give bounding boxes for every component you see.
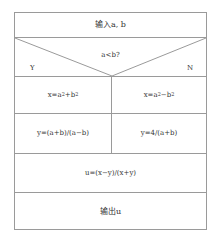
no-y-assignment: y=4/(a+b) (112, 114, 206, 153)
yes-branch-label: Y (30, 64, 35, 72)
expr-part: +b (65, 92, 75, 99)
y-assignment-row: y=(a+b)/(a−b) y=4/(a+b) (15, 114, 206, 154)
no-branch-label: N (187, 64, 193, 72)
yes-x-expression: x=a2+b2 (48, 92, 79, 99)
decision-block: a<b? Y N (15, 38, 206, 77)
compute-u-expression: u=(x−y)/(x+y) (85, 170, 136, 177)
yes-y-assignment: y=(a+b)/(a−b) (15, 114, 112, 153)
input-label: 输入a, b (95, 21, 126, 29)
x-assignment-row: x=a2+b2 x=a2−b2 (15, 77, 206, 114)
no-x-assignment: x=a2−b2 (112, 77, 206, 113)
input-block: 输入a, b (15, 13, 206, 38)
ns-flowchart: 输入a, b a<b? Y N x=a2+b2 x=a2−b2 y=(a+b)/… (14, 12, 207, 230)
exponent: 2 (75, 92, 78, 97)
output-block: 输出u (15, 193, 206, 230)
decision-condition: a<b? (15, 51, 206, 59)
compute-u-block: u=(x−y)/(x+y) (15, 154, 206, 193)
yes-x-assignment: x=a2+b2 (15, 77, 112, 113)
yes-y-expression: y=(a+b)/(a−b) (37, 130, 89, 137)
output-label: 输出u (100, 208, 121, 216)
expr-part: −b (161, 92, 171, 99)
no-y-expression: y=4/(a+b) (141, 130, 178, 137)
exponent: 2 (171, 92, 174, 97)
expr-part: x=a (144, 92, 158, 99)
expr-part: x=a (48, 92, 62, 99)
no-x-expression: x=a2−b2 (144, 92, 175, 99)
